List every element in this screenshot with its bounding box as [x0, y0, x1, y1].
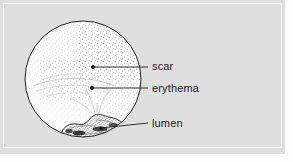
page-margin-right: [285, 0, 293, 162]
anatomical-illustration-canvas: [0, 0, 293, 162]
callout-label-erythema: erythema: [152, 83, 199, 94]
circular-field: [25, 21, 141, 142]
page-margin-bottom: [0, 154, 293, 162]
marker-dot-lumen: [99, 126, 102, 129]
marker-dot-scar: [91, 65, 95, 69]
callout-label-scar: scar: [152, 61, 173, 72]
callout-label-lumen: lumen: [152, 118, 183, 129]
figure-plate: scar erythema lumen: [0, 0, 293, 162]
marker-dot-erythema: [90, 86, 94, 90]
